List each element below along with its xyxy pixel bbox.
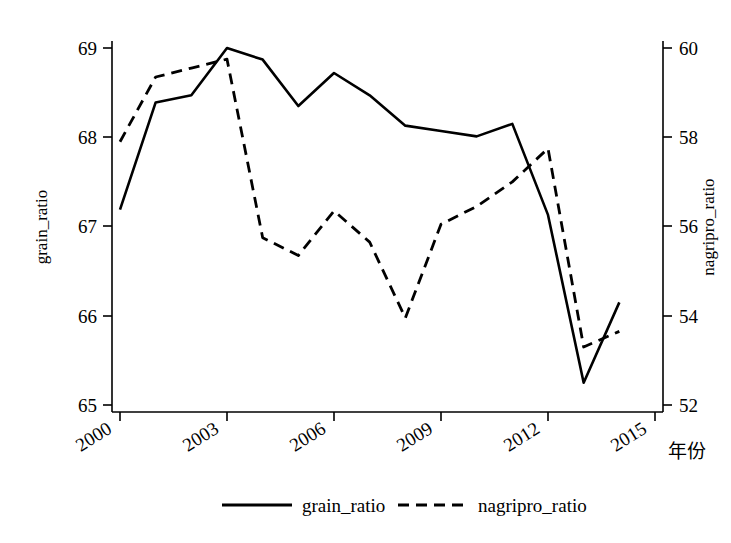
axis-lines bbox=[112, 41, 663, 412]
chart-legend: grain_ratio nagripro_ratio bbox=[222, 495, 587, 516]
left-tick-label-66: 66 bbox=[78, 306, 97, 327]
right-tick-label-60: 60 bbox=[679, 38, 698, 59]
left-tick-label-68: 68 bbox=[78, 127, 97, 148]
right-tick-label-58: 58 bbox=[679, 127, 698, 148]
right-tick-label-52: 52 bbox=[679, 395, 698, 416]
right-axis-title: nagripro_ratio bbox=[699, 178, 718, 275]
x-axis-title: 年份 bbox=[668, 441, 706, 462]
series-line-grain-ratio bbox=[120, 48, 619, 383]
right-tick-label-56: 56 bbox=[679, 216, 698, 237]
left-axis-ticks bbox=[103, 48, 112, 405]
x-tick-label-2012: 2012 bbox=[500, 418, 543, 456]
chart-svg: 69 68 67 66 65 60 58 56 54 52 bbox=[0, 0, 731, 543]
left-axis-title: grain_ratio bbox=[32, 190, 51, 265]
right-tick-label-54: 54 bbox=[679, 306, 699, 327]
x-axis-ticks bbox=[120, 412, 655, 421]
right-axis-ticks bbox=[663, 48, 672, 405]
legend-label-nagripro-ratio: nagripro_ratio bbox=[478, 495, 587, 516]
left-tick-label-67: 67 bbox=[78, 216, 97, 237]
left-tick-label-69: 69 bbox=[78, 38, 97, 59]
chart-figure: 69 68 67 66 65 60 58 56 54 52 bbox=[0, 0, 731, 543]
right-axis-tick-labels: 60 58 56 54 52 bbox=[679, 38, 699, 416]
x-tick-label-2006: 2006 bbox=[286, 418, 329, 456]
x-tick-label-2000: 2000 bbox=[72, 418, 115, 456]
x-tick-label-2003: 2003 bbox=[179, 418, 222, 456]
x-axis-tick-labels: 2000 2003 2006 2009 2012 2015 bbox=[72, 418, 650, 456]
x-tick-label-2009: 2009 bbox=[393, 418, 436, 456]
x-tick-label-2015: 2015 bbox=[607, 418, 650, 456]
left-axis-tick-labels: 69 68 67 66 65 bbox=[78, 38, 97, 416]
left-tick-label-65: 65 bbox=[78, 395, 97, 416]
legend-label-grain-ratio: grain_ratio bbox=[302, 495, 385, 516]
